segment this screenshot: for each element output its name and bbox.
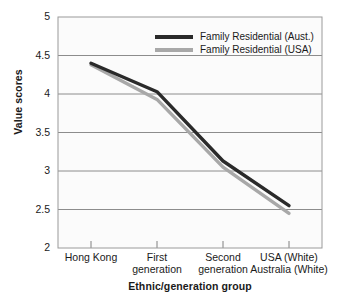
y-tick-label: 3.5 (14, 126, 50, 138)
legend-item: Family Residential (Aust.) (155, 30, 314, 43)
y-tick-label: 2.5 (14, 203, 50, 215)
legend-item: Family Residential (USA) (155, 43, 314, 56)
x-tick-label-line: Australia (White) (246, 264, 332, 276)
x-tick-label-line: USA (White) (246, 252, 332, 264)
legend-label-usa: Family Residential (USA) (200, 44, 312, 55)
chart-container: Value scores Ethnic/generation group 22.… (0, 0, 346, 300)
y-tick-label: 4 (14, 87, 50, 99)
y-tick-label: 5 (14, 10, 50, 22)
y-tick-label: 4.5 (14, 49, 50, 61)
y-tick-label: 3 (14, 164, 50, 176)
legend-label-aust: Family Residential (Aust.) (200, 31, 314, 42)
y-tick-label: 2 (14, 241, 50, 253)
legend-swatch-usa (155, 48, 193, 52)
legend: Family Residential (Aust.) Family Reside… (155, 30, 314, 56)
legend-swatch-aust (155, 35, 193, 39)
x-tick-label: USA (White)Australia (White) (246, 252, 332, 275)
